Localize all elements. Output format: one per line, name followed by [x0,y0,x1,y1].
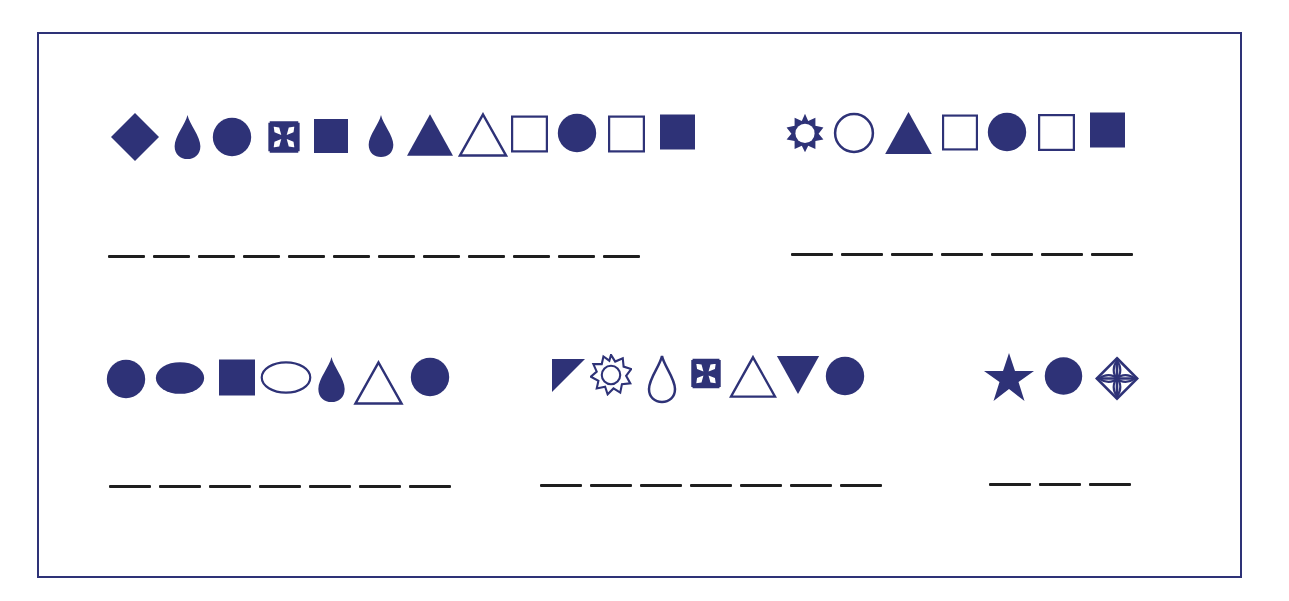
answer-blank[interactable] [108,255,145,258]
triangle-filled-icon [407,114,453,156]
answer-blank[interactable] [790,484,832,487]
answer-blank[interactable] [359,485,401,488]
triangle-outline-icon [729,354,777,399]
answer-blank[interactable] [513,255,550,258]
answer-blank[interactable] [259,485,301,488]
right-triangle-filled-icon [552,357,585,394]
circle-filled-icon [212,117,252,157]
answer-blanks-row2-left [109,485,451,488]
answer-blank[interactable] [1039,483,1081,486]
answer-blank[interactable] [209,485,251,488]
answer-blank[interactable] [109,485,151,488]
square-filled-icon [660,113,695,151]
circle-filled-icon [557,113,597,153]
answer-blank[interactable] [378,255,415,258]
answer-blank[interactable] [1041,253,1083,256]
square-outline-icon [942,112,978,153]
circle-filled-icon [1044,355,1083,397]
answer-blank[interactable] [468,255,505,258]
square-outline-icon [511,114,548,154]
triangle-filled-icon [885,112,932,154]
triangle-outline-icon [458,112,508,157]
answer-blank[interactable] [159,485,201,488]
answer-blank[interactable] [1091,253,1133,256]
answer-blank[interactable] [891,253,933,256]
answer-blank[interactable] [690,484,732,487]
triangle-outline-icon [353,360,404,405]
answer-blank[interactable] [791,253,833,256]
triangle-down-filled-icon [776,356,820,394]
circle-filled-icon [987,112,1027,152]
answer-blanks-row1-left [108,255,640,258]
sun-outline-icon [785,113,825,153]
ornamental-cross-icon [1095,356,1139,401]
answer-blank[interactable] [243,255,280,258]
square-outline-icon [608,114,645,154]
answer-blanks-row2-right [989,483,1131,486]
answer-blank[interactable] [740,484,782,487]
drop-filled-icon [366,114,396,158]
answer-blank[interactable] [409,485,451,488]
circle-filled-icon [410,357,450,397]
drop-filled-icon [172,114,203,160]
answer-blank[interactable] [991,253,1033,256]
answer-blank[interactable] [198,255,235,258]
answer-blanks-row1-right [791,253,1133,256]
answer-blank[interactable] [540,484,582,487]
star-filled-icon [984,353,1034,401]
maltese-cross-icon [690,357,722,390]
maltese-cross-icon [267,120,301,154]
answer-blank[interactable] [423,255,460,258]
drop-filled-icon [315,356,348,403]
answer-blanks-row2-middle [540,484,882,487]
answer-blank[interactable] [989,483,1031,486]
answer-blank[interactable] [558,255,595,258]
square-outline-icon [1038,112,1075,153]
answer-blank[interactable] [153,255,190,258]
answer-blank[interactable] [941,253,983,256]
drop-outline-icon [645,354,679,404]
diamond-filled-icon [110,112,160,162]
circle-filled-icon [106,359,146,399]
square-filled-icon [1090,111,1125,149]
answer-blank[interactable] [309,485,351,488]
circle-filled-icon [825,356,865,396]
ellipse-filled-icon [155,361,205,395]
answer-blank[interactable] [841,253,883,256]
answer-blank[interactable] [288,255,325,258]
square-filled-icon [314,119,348,153]
answer-blank[interactable] [603,255,640,258]
star-outline-icon [590,354,632,396]
answer-blank[interactable] [1089,483,1131,486]
square-filled-icon [219,358,255,397]
circle-outline-icon [833,112,875,154]
answer-blank[interactable] [333,255,370,258]
answer-blank[interactable] [590,484,632,487]
answer-blank[interactable] [640,484,682,487]
ellipse-outline-icon [260,360,312,395]
answer-blank[interactable] [840,484,882,487]
